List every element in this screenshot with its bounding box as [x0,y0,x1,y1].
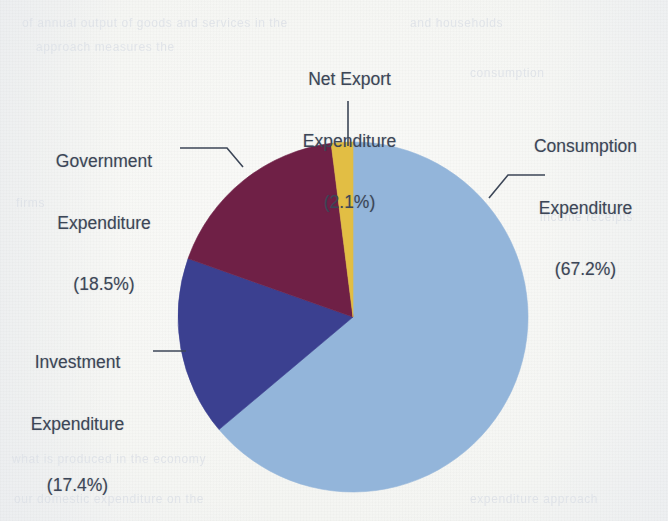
slice-label-line: Expenditure [24,213,184,234]
slice-label-line: (67.2%) [503,259,668,280]
slice-label-line: Government [24,151,184,172]
slice-label-line: Expenditure [0,414,155,435]
slice-label-line: (2.1%) [262,192,437,213]
slice-label-investment: Investment Expenditure (17.4%) [0,311,155,521]
slice-label-line: Expenditure [262,131,437,152]
slice-label-line: Net Export [262,69,437,90]
slice-label-line: (18.5%) [24,274,184,295]
slice-label-consumption: Consumption Expenditure (67.2%) [503,95,668,321]
slice-label-government: Government Expenditure (18.5%) [24,110,184,336]
slice-label-net-export: Net Export Expenditure (2.1%) [262,28,437,254]
slice-label-line: Expenditure [503,198,668,219]
slice-label-line: Consumption [503,136,668,157]
leader-line-government [180,148,243,167]
pie-chart: Net Export Expenditure (2.1%) Consumptio… [0,0,668,521]
slice-label-line: Investment [0,352,155,373]
slice-label-line: (17.4%) [0,475,155,496]
